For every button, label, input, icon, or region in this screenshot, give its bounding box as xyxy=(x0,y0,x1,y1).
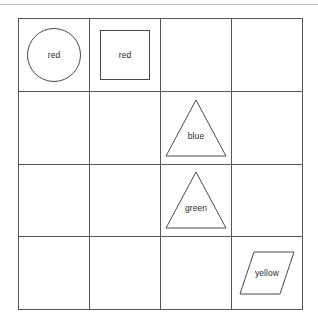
grid-cell-r1c4[interactable] xyxy=(232,19,303,92)
grid-cell-r4c4[interactable]: yellow xyxy=(232,237,303,310)
grid-cell-r1c2[interactable]: red xyxy=(90,19,161,92)
parallelogram-shape[interactable]: yellow xyxy=(239,251,295,295)
grid-cell-r2c4[interactable] xyxy=(232,92,303,165)
triangle-shape-green-label: green xyxy=(185,204,207,213)
triangle-shape-blue[interactable]: blue xyxy=(165,99,227,157)
square-shape-label: red xyxy=(119,51,132,60)
top-horizontal-rule xyxy=(0,4,318,5)
grid-cell-r2c2[interactable] xyxy=(90,92,161,165)
triangle-outline-icon xyxy=(165,99,227,157)
grid-cell-r4c1[interactable] xyxy=(19,237,90,310)
grid-cell-r3c4[interactable] xyxy=(232,165,303,238)
grid-cell-r2c1[interactable] xyxy=(19,92,90,165)
grid-cell-r1c1[interactable]: red xyxy=(19,19,90,92)
triangle-shape-blue-label: blue xyxy=(188,131,204,140)
triangle-outline-icon xyxy=(165,171,227,229)
grid-cell-r3c2[interactable] xyxy=(90,165,161,238)
grid-cell-r4c2[interactable] xyxy=(90,237,161,310)
grid-cell-r4c3[interactable] xyxy=(161,237,232,310)
triangle-shape-green[interactable]: green xyxy=(165,171,227,229)
grid-cell-r2c3[interactable]: blue xyxy=(161,92,232,165)
circle-shape-label: red xyxy=(48,51,61,60)
shape-grid: red red blue green xyxy=(18,18,303,310)
grid-cell-r1c3[interactable] xyxy=(161,19,232,92)
grid-cell-r3c1[interactable] xyxy=(19,165,90,238)
parallelogram-shape-label: yellow xyxy=(255,269,279,278)
square-shape[interactable]: red xyxy=(100,30,150,80)
grid-cell-r3c3[interactable]: green xyxy=(161,165,232,238)
circle-shape[interactable]: red xyxy=(27,28,81,82)
